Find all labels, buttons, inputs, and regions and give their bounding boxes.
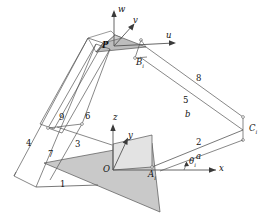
- link-number-9: 9: [59, 113, 64, 122]
- link-number-6: 6: [85, 112, 90, 121]
- axis-label-z: z: [113, 113, 117, 122]
- link-bar-left-outer: [40, 38, 103, 129]
- link-number-5: 5: [183, 96, 188, 105]
- dimension-label-b: b: [185, 110, 190, 119]
- joint-node-left-a: [47, 127, 50, 130]
- link-2-lower: [160, 140, 243, 171]
- link-3-line: [57, 127, 112, 145]
- link-1-line: [36, 185, 98, 187]
- axis-z-arrowhead: [110, 124, 115, 131]
- joint-bi-subscript: i: [142, 63, 144, 69]
- axis-label-v: v: [133, 16, 138, 25]
- joint-label-ai: Ai: [148, 170, 156, 181]
- joint-ci-node-top: [242, 116, 245, 119]
- joint-node-left-b: [81, 123, 84, 126]
- joint-label-ci: Ci: [249, 124, 257, 135]
- link-number-4: 4: [26, 139, 31, 148]
- diagram-canvas: [0, 0, 276, 214]
- dimension-label-a: a: [196, 152, 201, 161]
- link-number-7: 7: [48, 150, 53, 159]
- link-number-2: 2: [196, 138, 201, 147]
- joint-ai-node: [151, 166, 154, 169]
- axis-u-arrowhead: [169, 40, 176, 45]
- kinematic-diagram: w v u P z y x O Ai Bi Ci a b θi 1 2 3 4 …: [0, 0, 276, 214]
- link-bar-left-inner: [48, 44, 110, 133]
- link-2-line: [152, 130, 243, 167]
- axis-x-arrowhead: [209, 167, 216, 172]
- joint-ai-subscript: i: [154, 175, 156, 181]
- link-8-line: [146, 47, 243, 117]
- axis-w-arrowhead: [111, 10, 116, 17]
- joint-ci-subscript: i: [256, 129, 258, 135]
- axis-label-u: u: [166, 31, 171, 40]
- theta-subscript: i: [194, 162, 196, 168]
- axis-label-w: w: [118, 5, 125, 14]
- link-number-8: 8: [196, 74, 201, 83]
- dimension-label-theta: θi: [189, 157, 196, 168]
- link-number-3: 3: [75, 140, 80, 149]
- joint-bi-bracket: [135, 40, 147, 58]
- axis-label-y: y: [128, 131, 133, 140]
- frame-left-lower: [14, 176, 36, 187]
- frame-base-tick-left: [14, 172, 16, 176]
- platform-wire-top: [88, 31, 115, 38]
- axis-label-x: x: [219, 164, 224, 173]
- platform-origin-label-p: P: [102, 41, 108, 50]
- link-5-line: [140, 57, 243, 130]
- base-panel: [113, 135, 152, 170]
- link-number-1: 1: [60, 180, 65, 189]
- base-origin-label-o: O: [103, 165, 110, 174]
- joint-label-bi: Bi: [136, 58, 144, 69]
